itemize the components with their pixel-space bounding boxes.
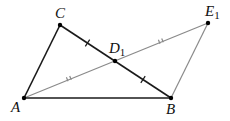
- label-b: B: [166, 102, 175, 117]
- label-d1-text: D: [109, 40, 120, 56]
- double-tick-mark-d1-e1: [158, 38, 163, 43]
- point-b: [169, 96, 173, 100]
- double-tick-mark-a-d1: [66, 76, 71, 81]
- label-e1-text: E: [205, 3, 214, 19]
- point-a: [22, 96, 26, 100]
- point-e1: [206, 21, 210, 25]
- point-d1: [113, 59, 117, 63]
- label-e1: E1: [205, 4, 220, 21]
- label-c-text: C: [55, 5, 65, 21]
- label-c: C: [55, 6, 65, 21]
- segment-a-c: [24, 25, 60, 98]
- label-a: A: [11, 100, 20, 115]
- label-b-text: B: [166, 101, 175, 117]
- label-d1: D1: [109, 41, 125, 58]
- geometry-figure: [0, 0, 230, 121]
- label-d1-subscript: 1: [120, 46, 126, 58]
- label-a-text: A: [11, 99, 20, 115]
- point-c: [58, 23, 62, 27]
- segment-e1-b: [171, 23, 208, 98]
- label-e1-subscript: 1: [214, 9, 220, 21]
